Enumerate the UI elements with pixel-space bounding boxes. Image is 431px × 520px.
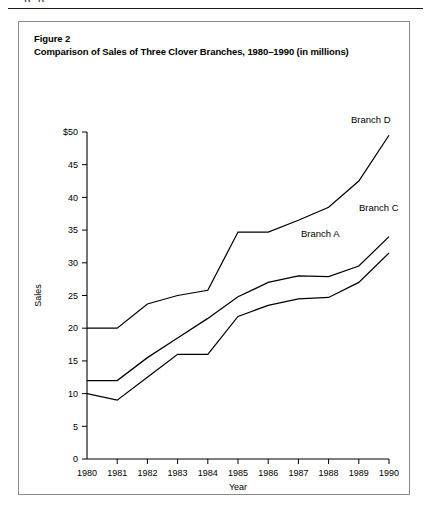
series-line-branch-c [87,237,389,381]
series-line-branch-d [87,135,389,328]
y-tick-label: 10 [68,389,78,399]
x-tick-label: 1987 [288,468,308,478]
x-tick-label: 1986 [258,468,278,478]
y-tick-label: 45 [68,160,78,170]
x-tick-label: 1988 [319,468,339,478]
x-tick-label: 1989 [349,468,369,478]
y-tick-label: 40 [68,193,78,203]
x-axis-title: Year [229,482,247,492]
x-tick-label: 1983 [168,468,188,478]
y-tick-label: 25 [68,291,78,301]
series-labels: Branch DBranch CBranch A [301,114,399,239]
figure-container: Figure 2 Comparison of Sales of Three Cl… [18,21,410,495]
y-tick-label: 0 [73,454,78,464]
line-chart: 051015202530354045$50 198019811982198319… [19,22,411,496]
chart-svg: 051015202530354045$50 198019811982198319… [19,22,411,496]
x-tick-label: 1982 [137,468,157,478]
series-label-branch-a: Branch A [301,228,340,239]
y-axis-title: Sales [33,284,43,307]
y-tick-label: 30 [68,258,78,268]
x-tick-label: 1984 [198,468,218,478]
x-tick-label: 1985 [228,468,248,478]
y-axis: 051015202530354045$50 [63,127,87,464]
y-tick-label: 15 [68,356,78,366]
page-top-rule [8,8,423,9]
series-label-branch-d: Branch D [351,114,391,125]
x-tick-label: 1981 [107,468,127,478]
series-line-branch-a [87,253,389,400]
y-tick-label: 5 [73,422,78,432]
y-tick-label: $50 [63,127,78,137]
x-tick-label: 1990 [379,468,399,478]
page-bleed-text: p p [24,0,46,2]
y-tick-label: 35 [68,225,78,235]
x-tick-label: 1980 [77,468,97,478]
x-axis: 1980198119821983198419851986198719881989… [77,459,399,478]
y-tick-label: 20 [68,323,78,333]
series-lines [87,135,389,400]
series-label-branch-c: Branch C [359,202,399,213]
